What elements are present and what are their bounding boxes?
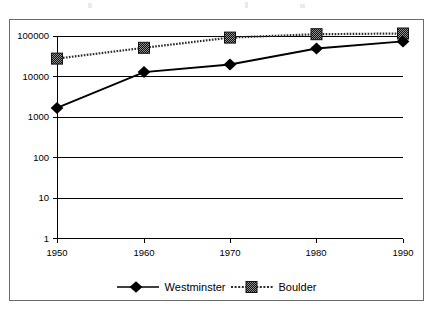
scan-artifact	[300, 4, 305, 8]
scan-artifact	[245, 2, 248, 8]
x-tick-label: 1980	[296, 248, 336, 258]
x-tick-label: 1950	[37, 248, 77, 258]
legend-label: Westminster	[160, 281, 230, 293]
y-tick-label: 10000	[3, 72, 49, 82]
scan-artifact	[88, 3, 92, 8]
legend-marker-square-icon	[230, 280, 274, 294]
legend-item-westminster[interactable]: Westminster	[116, 280, 230, 294]
legend-label: Boulder	[274, 281, 321, 293]
y-tick-label: 1	[3, 234, 49, 244]
y-tick-label: 100000	[3, 31, 49, 41]
x-tick-label: 1970	[210, 248, 250, 258]
chart-frame	[9, 19, 424, 301]
y-tick-label: 1000	[3, 112, 49, 122]
x-tick-label: 1990	[383, 248, 423, 258]
y-tick-label: 100	[3, 153, 49, 163]
legend-item-boulder[interactable]: Boulder	[230, 280, 321, 294]
chart-legend: Westminster Boulder	[0, 277, 436, 297]
legend-marker-diamond-icon	[116, 280, 160, 294]
x-tick-label: 1960	[124, 248, 164, 258]
y-tick-label: 10	[3, 193, 49, 203]
